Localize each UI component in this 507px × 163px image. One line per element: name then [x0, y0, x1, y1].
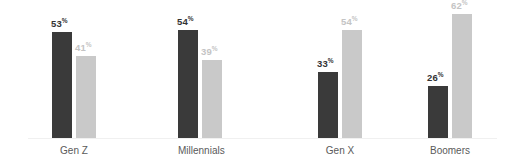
bar-group-bars: 53%41%: [52, 0, 96, 138]
bar-value-label: 54%: [177, 14, 194, 27]
bar-value-label: 53%: [51, 16, 68, 29]
bar-value-label: 62%: [451, 0, 468, 11]
bar-group-bars: 54%39%: [178, 0, 222, 138]
bar-value-number: 62: [451, 0, 462, 11]
bar-value-number: 33: [317, 58, 328, 69]
bar-value-label: 41%: [75, 40, 92, 53]
bar-value-label: 26%: [427, 70, 444, 83]
bar-value-number: 39: [201, 46, 212, 57]
bar-chart: 53%41%Gen Z54%39%Millennials33%54%Gen X2…: [0, 0, 507, 163]
bar-slot: 62%: [452, 0, 472, 138]
bar-slot: 39%: [202, 0, 222, 138]
bar-value-number: 54: [341, 16, 352, 27]
percent-sign: %: [188, 15, 194, 22]
bar[interactable]: [342, 30, 362, 138]
bar-value-number: 26: [427, 72, 438, 83]
bar-group: 54%39%Millennials: [178, 0, 222, 163]
bar-slot: 54%: [342, 0, 362, 138]
percent-sign: %: [438, 71, 444, 78]
bar-slot: 54%: [178, 0, 198, 138]
bar-value-label: 33%: [317, 56, 334, 69]
category-label: Millennials: [178, 145, 222, 157]
bar-slot: 33%: [318, 0, 338, 138]
bar-slot: 41%: [76, 0, 96, 138]
bar[interactable]: [318, 72, 338, 138]
category-label: Gen X: [318, 145, 362, 157]
category-label: Boomers: [428, 145, 472, 157]
percent-sign: %: [86, 41, 92, 48]
bar-value-number: 53: [51, 18, 62, 29]
percent-sign: %: [62, 17, 68, 24]
percent-sign: %: [352, 15, 358, 22]
bar-value-label: 39%: [201, 44, 218, 57]
bar[interactable]: [178, 30, 198, 138]
percent-sign: %: [328, 57, 334, 64]
bar-value-number: 54: [177, 16, 188, 27]
bar[interactable]: [428, 86, 448, 138]
bar-value-label: 54%: [341, 14, 358, 27]
bar-group-bars: 33%54%: [318, 0, 362, 138]
bar[interactable]: [202, 60, 222, 138]
bar[interactable]: [52, 32, 72, 138]
category-label: Gen Z: [52, 145, 96, 157]
bar[interactable]: [452, 14, 472, 138]
bar-group: 33%54%Gen X: [318, 0, 362, 163]
bar-group-bars: 26%62%: [428, 0, 472, 138]
bar-group: 26%62%Boomers: [428, 0, 472, 163]
bar-value-number: 41: [75, 42, 86, 53]
bar-slot: 53%: [52, 0, 72, 138]
axis-baseline: [28, 138, 497, 139]
percent-sign: %: [462, 0, 468, 6]
bar-group: 53%41%Gen Z: [52, 0, 96, 163]
bar-slot: 26%: [428, 0, 448, 138]
bar[interactable]: [76, 56, 96, 138]
percent-sign: %: [212, 45, 218, 52]
